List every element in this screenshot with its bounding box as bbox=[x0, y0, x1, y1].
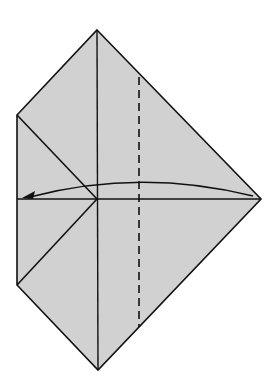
origami-diagram bbox=[0, 0, 278, 389]
